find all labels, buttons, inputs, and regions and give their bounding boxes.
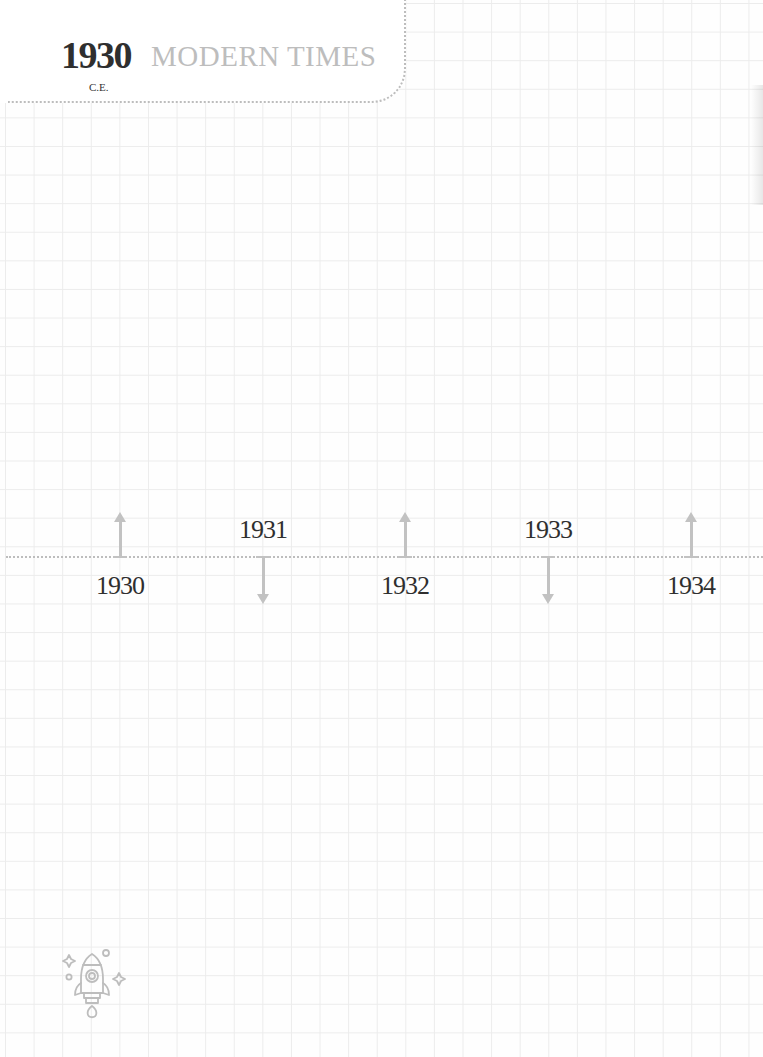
event-year-label: 1933 xyxy=(498,517,598,543)
rocket-icon xyxy=(62,945,126,1025)
event-year-label: 1931 xyxy=(213,517,313,543)
header-period-title: MODERN TIMES xyxy=(151,42,376,71)
grid-paper-page: 1930 C.E. MODERN TIMES 1930 1931 1932 19… xyxy=(0,0,763,1057)
event-year-label: 1934 xyxy=(641,573,741,599)
header-year: 1930 xyxy=(61,36,131,74)
event-year-label: 1932 xyxy=(355,573,455,599)
arrow-up-icon xyxy=(119,521,122,557)
arrow-up-icon xyxy=(690,521,693,557)
event-year-label: 1930 xyxy=(70,573,170,599)
page-edge-shadow xyxy=(751,85,763,205)
arrow-up-icon xyxy=(404,521,407,557)
arrow-down-icon xyxy=(262,557,265,595)
header-era: C.E. xyxy=(89,82,109,93)
arrow-down-icon xyxy=(547,557,550,595)
